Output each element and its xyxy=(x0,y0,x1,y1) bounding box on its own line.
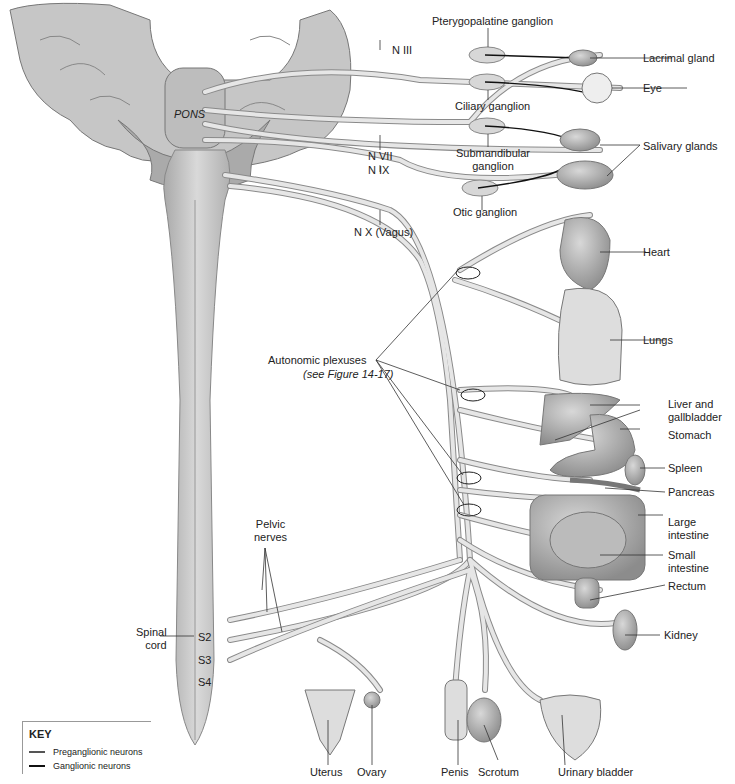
ovary-label: Ovary xyxy=(357,766,386,779)
liver-gallbladder-label: Liver and gallbladder xyxy=(668,398,722,424)
large-intestine-label: Large intestine xyxy=(668,516,709,542)
penis-label: Penis xyxy=(441,766,469,779)
diagram-artwork xyxy=(0,0,735,784)
n7-label: N VII xyxy=(368,150,392,163)
lungs-shape xyxy=(558,288,622,385)
uterus-shape xyxy=(305,690,355,755)
pons-label: PONS xyxy=(174,108,205,121)
scrotum-label: Scrotum xyxy=(478,766,519,779)
plexuses-reference: (see Figure 14-17) xyxy=(303,368,394,381)
ganglionic-line-swatch xyxy=(29,765,45,767)
segment-s3-label: S3 xyxy=(198,654,211,667)
small-intestine-label: Small intestine xyxy=(668,549,709,575)
spinal-cord-label: Spinal cord xyxy=(136,626,167,652)
small-intestine-shape xyxy=(550,512,626,568)
urinary-bladder-label: Urinary bladder xyxy=(558,766,633,779)
key-item-preganglionic: Preganglionic neurons xyxy=(29,747,143,757)
lungs-label: Lungs xyxy=(643,334,673,347)
pelvic-nerves-label: Pelvic nerves xyxy=(254,518,287,544)
spleen-shape xyxy=(625,455,645,485)
otic-ganglion-label: Otic ganglion xyxy=(453,206,517,219)
ciliary-ganglion-label: Ciliary ganglion xyxy=(455,100,530,113)
key-item-label: Preganglionic neurons xyxy=(53,747,143,757)
eye-label: Eye xyxy=(643,82,662,95)
bladder-shape xyxy=(540,695,601,760)
spleen-label: Spleen xyxy=(668,462,702,475)
key-title: KEY xyxy=(29,728,52,740)
submandibular-ganglion-label: Submandibular ganglion xyxy=(456,147,530,173)
salivary-glands-label: Salivary glands xyxy=(643,140,718,153)
kidney-shape xyxy=(613,610,637,650)
eye-shape xyxy=(582,73,612,103)
autonomic-plexuses-label: Autonomic plexuses xyxy=(268,354,366,367)
kidney-label: Kidney xyxy=(664,629,698,642)
stomach-label: Stomach xyxy=(668,429,711,442)
n3-label: N III xyxy=(392,44,412,57)
penis-shape xyxy=(445,680,467,740)
scrotum-shape xyxy=(467,698,501,742)
n10-vagus-label: N X (Vagus) xyxy=(354,226,413,239)
segment-s2-label: S2 xyxy=(198,631,211,644)
spinal-cord xyxy=(164,150,230,745)
lacrimal-gland-label: Lacrimal gland xyxy=(643,52,715,65)
heart-shape xyxy=(560,218,610,291)
pterygopalatine-ganglion-label: Pterygopalatine ganglion xyxy=(432,15,553,28)
heart-label: Heart xyxy=(643,246,670,259)
pancreas-label: Pancreas xyxy=(668,486,714,499)
key-item-label: Ganglionic neurons xyxy=(53,761,131,771)
n9-label: N IX xyxy=(368,164,389,177)
uterus-label: Uterus xyxy=(310,766,342,779)
salivary-gland-1 xyxy=(560,129,600,151)
rectum-label: Rectum xyxy=(668,580,706,593)
rectum-shape xyxy=(575,578,599,608)
segment-s4-label: S4 xyxy=(198,676,211,689)
legend-key: KEY Preganglionic neurons Ganglionic neu… xyxy=(22,721,151,774)
key-item-ganglionic: Ganglionic neurons xyxy=(29,761,131,771)
salivary-gland-2 xyxy=(557,161,613,189)
preganglionic-line-swatch xyxy=(29,751,45,753)
